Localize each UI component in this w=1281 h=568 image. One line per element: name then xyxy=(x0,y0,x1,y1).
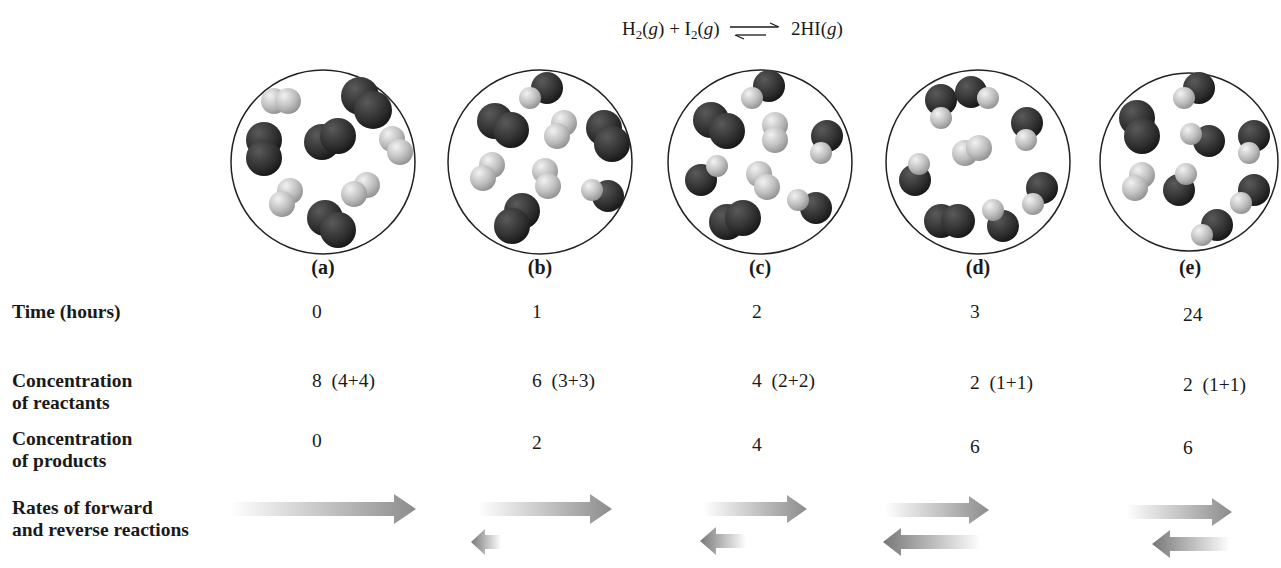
hi-symbol: 2HI xyxy=(791,18,821,39)
reactants-value-d: 2 (1+1) xyxy=(970,372,1033,394)
rates-label-line1: Rates of forward xyxy=(12,497,189,519)
panel-c: (c) xyxy=(667,68,853,258)
panel-label-e: (e) xyxy=(1160,256,1220,279)
forward-rate-arrow-c xyxy=(703,495,809,523)
hi-state: (g) xyxy=(821,18,843,39)
molecule-container-b xyxy=(447,68,633,258)
i2-molecule xyxy=(924,204,975,238)
panel-label-c: (c) xyxy=(730,256,790,279)
reverse-rate-arrow-b xyxy=(471,529,501,555)
reactants-value-c: 4 (2+2) xyxy=(752,370,815,392)
reverse-rate-arrow-d xyxy=(883,528,981,556)
panel-b: (b) xyxy=(447,68,633,258)
forward-rate-arrow-d xyxy=(885,496,991,524)
reactants-label-line2: of reactants xyxy=(12,392,132,414)
products-value-a: 0 xyxy=(312,430,322,452)
products-value-d: 6 xyxy=(970,436,980,458)
reactants-value-b: 6 (3+3) xyxy=(532,370,595,392)
i2-state: (g) xyxy=(697,18,719,39)
time-value-e: 24 xyxy=(1183,304,1203,326)
row-label-rates: Rates of forward and reverse reactions xyxy=(12,497,189,541)
forward-rate-arrow-a xyxy=(230,494,418,524)
row-label-time: Time (hours) xyxy=(12,301,121,323)
products-label-line2: of products xyxy=(12,450,132,472)
products-value-c: 4 xyxy=(752,434,762,456)
time-value-c: 2 xyxy=(752,301,762,323)
forward-rate-arrow-b xyxy=(478,494,614,524)
forward-rate-arrow-e xyxy=(1062,498,1234,526)
panel-label-b: (b) xyxy=(510,256,570,279)
panel-label-d: (d) xyxy=(948,256,1008,279)
reactants-label-line1: Concentration xyxy=(12,370,132,392)
rates-label-line2: and reverse reactions xyxy=(12,519,189,541)
panel-e: (e) xyxy=(1099,68,1281,258)
molecule-container-a xyxy=(230,68,416,258)
h2-molecule xyxy=(762,112,788,153)
molecule-container-d xyxy=(885,68,1071,258)
time-value-a: 0 xyxy=(312,301,322,323)
plus-sign: + xyxy=(664,18,684,39)
equilibrium-arrows-icon xyxy=(728,21,782,41)
time-value-d: 3 xyxy=(970,301,980,323)
i2-molecule xyxy=(246,122,282,176)
panel-label-a: (a) xyxy=(293,256,353,279)
products-label-line1: Concentration xyxy=(12,428,132,450)
products-value-e: 6 xyxy=(1183,437,1193,459)
row-label-products: Concentration of products xyxy=(12,428,132,472)
reverse-rate-arrow-c xyxy=(700,527,746,555)
reaction-equation: H2(g) + I2(g) 2HI(g) xyxy=(622,18,843,43)
products-value-b: 2 xyxy=(532,432,542,454)
h2-symbol: H xyxy=(622,18,636,39)
panel-a: (a) xyxy=(230,68,416,258)
row-label-reactants: Concentration of reactants xyxy=(12,370,132,414)
h2-state: (g) xyxy=(642,18,664,39)
reactants-value-e: 2 (1+1) xyxy=(1183,374,1246,396)
reactants-value-a: 8 (4+4) xyxy=(312,370,375,392)
time-value-b: 1 xyxy=(532,301,542,323)
time-label-text: Time (hours) xyxy=(12,301,121,322)
h2-molecule xyxy=(261,88,301,114)
reverse-rate-arrow-e xyxy=(1060,530,1230,558)
panel-d: (d) xyxy=(885,68,1071,258)
molecule-container-e xyxy=(1099,68,1281,258)
molecule-container-c xyxy=(667,68,853,258)
